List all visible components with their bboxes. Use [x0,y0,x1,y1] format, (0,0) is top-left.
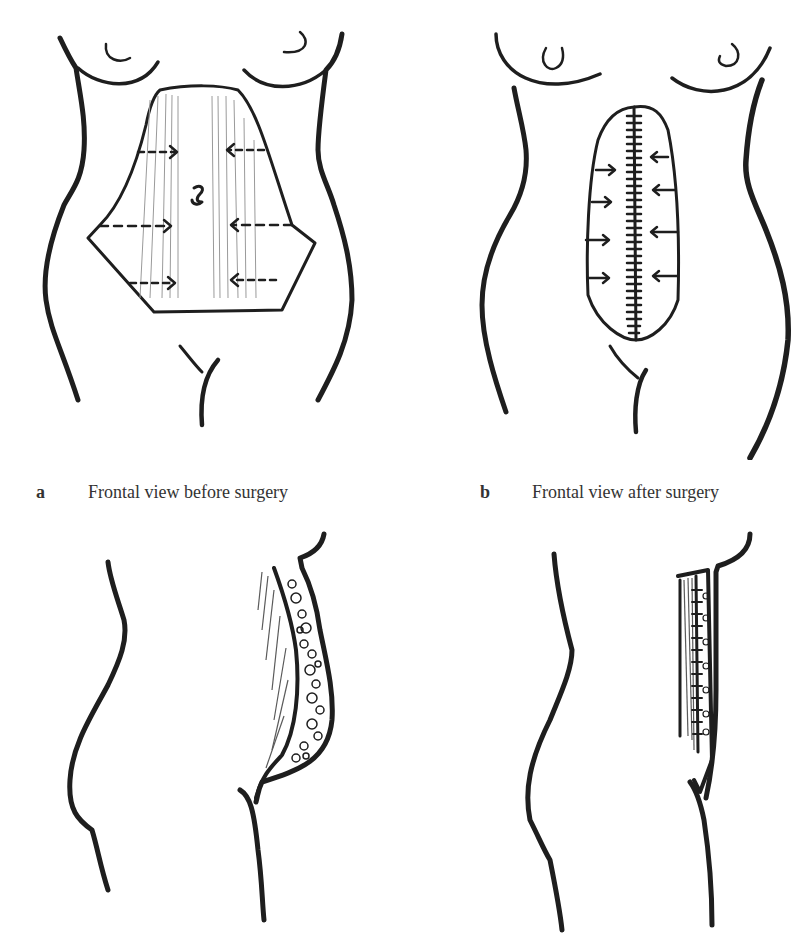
caption-a-text: Frontal view before surgery [88,482,288,502]
torso-right-outline [318,34,352,400]
fat-hatching-right [212,96,256,298]
thigh-outline [240,790,264,920]
frontal-before-illustration [0,0,400,460]
frontal-after-illustration [400,0,803,460]
torso-right-outline [746,80,788,458]
back-outline [528,554,572,930]
muscle-hatching [684,578,694,750]
groin-left-line [610,346,638,378]
breast-left [496,34,600,84]
thigh-outline [690,782,712,925]
caption-b-text: Frontal view after surgery [532,482,719,502]
back-outline [70,562,125,890]
excision-area-outline [88,86,315,312]
breast-right [244,70,326,87]
caption-b: bFrontal view after surgery [480,482,719,503]
groin-right-line [635,370,646,432]
nipple-right [719,44,738,66]
groin-left-line [180,346,202,372]
breast-left [78,62,158,84]
nipple-left [543,48,563,69]
torso-left-outline [482,88,526,412]
navel-mark [192,186,202,204]
fat-cells [288,580,324,762]
caption-a: aFrontal view before surgery [36,482,288,503]
arrows-inward-left [100,146,177,289]
groin-right-line [202,360,218,425]
panel-a-frontal-before [0,0,400,460]
panel-c-lateral-before [0,520,400,940]
panel-d-lateral-after [400,520,803,940]
panel-b-frontal-after [400,0,803,460]
panel-letter-a: a [36,482,88,503]
nipple-right [284,32,306,52]
torso-left-outline [45,38,84,400]
nipple-left [106,44,130,61]
abdominal-wall-line [256,568,297,798]
lateral-after-illustration [400,520,803,940]
lateral-before-illustration [0,520,400,940]
breast-right [672,48,770,91]
panel-letter-b: b [480,482,532,503]
